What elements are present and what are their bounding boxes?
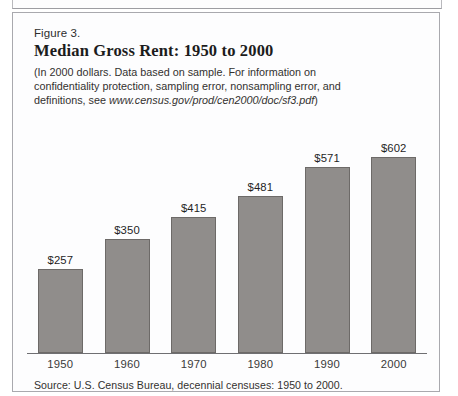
bar-rect xyxy=(305,167,350,353)
bar-rect xyxy=(171,217,216,353)
bar-value-label: $415 xyxy=(181,202,207,214)
figure-container: Figure 3. Median Gross Rent: 1950 to 200… xyxy=(12,12,440,392)
census-url-text: www.census.gov/prod/cen2000/doc/sf3.pdf xyxy=(109,94,314,106)
x-tick-1960: 1960 xyxy=(94,358,161,370)
bar-group-1950: $257 xyxy=(27,123,94,353)
x-tick-1970: 1970 xyxy=(160,358,227,370)
x-axis-line xyxy=(27,353,427,354)
bar-group-1990: $571 xyxy=(294,123,361,353)
bar-value-label: $257 xyxy=(48,254,74,266)
bar-rect xyxy=(38,269,83,353)
bar-group-1960: $350 xyxy=(94,123,161,353)
bar-value-label: $350 xyxy=(114,224,140,236)
figure-subtitle: (In 2000 dollars. Data based on sample. … xyxy=(34,65,426,108)
figure-number-label: Figure 3. xyxy=(34,27,80,39)
adjacent-box-edge xyxy=(12,0,442,9)
bar-value-label: $602 xyxy=(381,142,407,154)
bar-group-1970: $415 xyxy=(160,123,227,353)
bar-rect xyxy=(371,157,416,353)
bar-series: $257 $350 $415 $481 $571 $602 xyxy=(27,123,427,353)
x-tick-1980: 1980 xyxy=(227,358,294,370)
bar-group-2000: $602 xyxy=(360,123,427,353)
bar-value-label: $481 xyxy=(248,181,274,193)
chart-plot-area: $257 $350 $415 $481 $571 $602 xyxy=(27,123,427,354)
subtitle-line-3-prefix: definitions, see xyxy=(34,94,109,106)
source-note: Source: U.S. Census Bureau, decennial ce… xyxy=(34,379,343,391)
x-tick-1950: 1950 xyxy=(27,358,94,370)
x-tick-1990: 1990 xyxy=(294,358,361,370)
bar-value-label: $571 xyxy=(314,152,340,164)
figure-title: Median Gross Rent: 1950 to 2000 xyxy=(34,41,273,61)
bar-rect xyxy=(105,239,150,353)
subtitle-line-3-suffix: ) xyxy=(314,94,318,106)
x-tick-2000: 2000 xyxy=(360,358,427,370)
subtitle-line-2: confidentiality protection, sampling err… xyxy=(34,80,341,92)
bar-rect xyxy=(238,196,283,353)
subtitle-line-1: (In 2000 dollars. Data based on sample. … xyxy=(34,66,316,78)
x-axis-tick-labels: 1950 1960 1970 1980 1990 2000 xyxy=(27,358,427,370)
bar-group-1980: $481 xyxy=(227,123,294,353)
